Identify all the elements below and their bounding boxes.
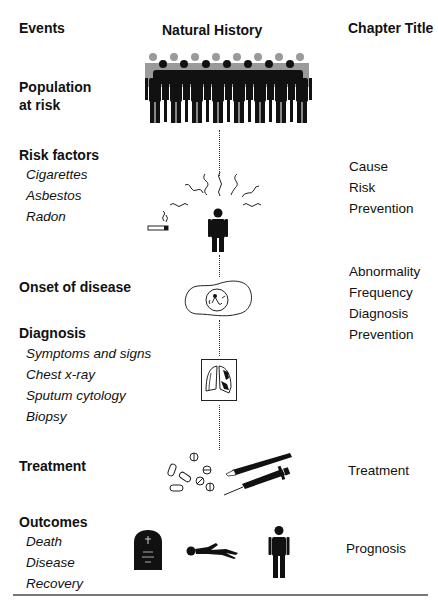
crowd-of-people-icon: [143, 52, 315, 124]
timeline-dotted-connector: [219, 405, 220, 450]
risk-factor-list: Cigarettes Asbestos Radon: [19, 164, 88, 227]
event-treatment: Treatment: [19, 457, 86, 475]
list-item: Sputum cytology: [19, 385, 151, 406]
event-outcomes: Outcomes: [19, 513, 87, 531]
chapter-frequency: Frequency: [349, 282, 420, 303]
list-item: Symptoms and signs: [19, 343, 151, 364]
timeline-dotted-connector: [219, 255, 220, 277]
event-diagnosis: Diagnosis: [19, 324, 86, 342]
header-events: Events: [19, 20, 65, 36]
chapter-list-onset: Abnormality Frequency Diagnosis Preventi…: [349, 261, 420, 345]
chapter-list-risk: Cause Risk Prevention: [349, 156, 414, 219]
list-item: Chest x-ray: [19, 364, 151, 385]
event-onset-of-disease: Onset of disease: [19, 278, 131, 296]
timeline-dotted-connector: [219, 320, 220, 356]
chapter-diagnosis: Diagnosis: [349, 303, 420, 324]
chest-xray-icon: [201, 359, 237, 401]
list-item: Recovery: [19, 573, 83, 594]
person-exposed-to-risks-icon: [145, 170, 270, 252]
chapter-abnormality: Abnormality: [349, 261, 420, 282]
chapter-prognosis: Prognosis: [346, 538, 406, 559]
outcome-list: Death Disease Recovery: [19, 531, 83, 594]
list-item: Asbestos: [19, 185, 88, 206]
tombstone-icon: [134, 530, 162, 570]
list-item: Biopsy: [19, 406, 151, 427]
event-label-line2: at risk: [19, 96, 91, 114]
chapter-prevention: Prevention: [349, 198, 414, 219]
diagnosis-method-list: Symptoms and signs Chest x-ray Sputum cy…: [19, 343, 151, 427]
list-item: Disease: [19, 552, 83, 573]
chapter-prevention: Prevention: [349, 324, 420, 345]
chapter-treatment: Treatment: [348, 460, 409, 481]
event-population-at-risk: Population at risk: [19, 78, 91, 114]
list-item: Cigarettes: [19, 164, 88, 185]
standing-person-icon: [268, 526, 290, 578]
header-natural-history: Natural History: [162, 22, 262, 38]
chapter-cause: Cause: [349, 156, 414, 177]
abnormal-cell-icon: [180, 278, 255, 320]
event-risk-factors: Risk factors: [19, 146, 99, 164]
lying-person-icon: [186, 541, 240, 559]
list-item: Radon: [19, 206, 88, 227]
list-item: Death: [19, 531, 83, 552]
chapter-risk: Risk: [349, 177, 414, 198]
bottom-divider-rule: [13, 594, 428, 596]
event-label-line1: Population: [19, 78, 91, 96]
pills-and-syringe-icon: [166, 452, 294, 496]
header-chapter-title: Chapter Title: [348, 20, 433, 36]
